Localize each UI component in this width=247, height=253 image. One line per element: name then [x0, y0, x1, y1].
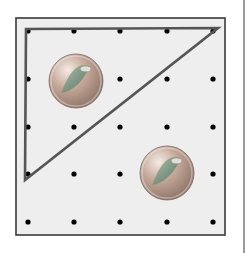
peg [71, 219, 76, 224]
peg [117, 76, 122, 81]
page-edge-rule [243, 0, 245, 253]
peg [117, 124, 122, 129]
peg [164, 124, 169, 129]
peg [210, 171, 215, 176]
peg [210, 219, 215, 224]
peg [210, 124, 215, 129]
peg [71, 171, 76, 176]
peg [71, 124, 76, 129]
marble-1 [49, 54, 103, 108]
peg [117, 171, 122, 176]
marble-2 [140, 146, 194, 200]
geoboard-figure [0, 0, 247, 253]
peg [25, 219, 30, 224]
peg [210, 76, 215, 81]
peg [164, 219, 169, 224]
peg [117, 219, 122, 224]
peg [164, 76, 169, 81]
